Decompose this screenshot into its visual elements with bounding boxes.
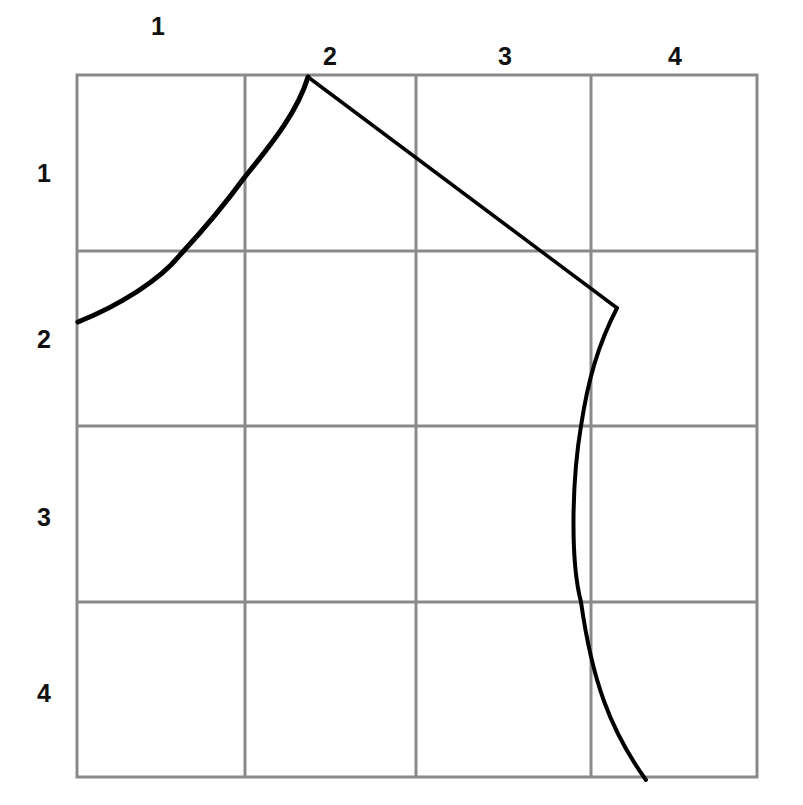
right-curve [573, 308, 646, 780]
diagonal-line [308, 77, 617, 308]
row-label-2: 2 [37, 325, 51, 353]
pattern-outline [78, 77, 646, 780]
row-label-1: 1 [37, 159, 51, 187]
column-label-3: 3 [498, 42, 512, 70]
row-label-4: 4 [37, 679, 51, 707]
column-label-1: 1 [151, 12, 165, 40]
column-label-2: 2 [323, 42, 337, 70]
column-labels: 1 2 3 4 [151, 12, 682, 70]
left-curve [78, 77, 308, 322]
row-label-3: 3 [37, 503, 51, 531]
row-labels: 1 2 3 4 [37, 159, 51, 707]
grid [77, 75, 757, 777]
grid-diagram: 1 2 3 4 1 2 3 4 [0, 0, 803, 805]
column-label-4: 4 [668, 42, 682, 70]
